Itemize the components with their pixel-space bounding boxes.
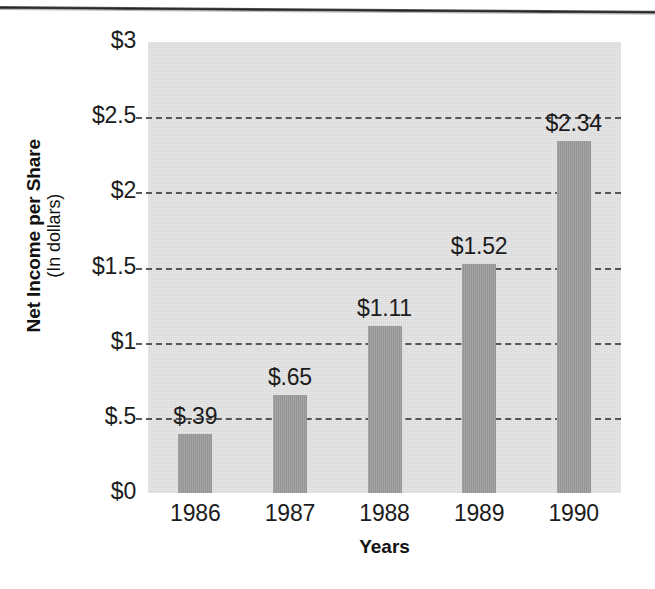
x-axis-tick-label: 1989	[429, 500, 529, 527]
bar-value-label: $1.52	[424, 233, 534, 260]
x-axis-tick-label: 1988	[335, 500, 435, 527]
x-axis-tick-label: 1986	[145, 500, 245, 527]
x-axis-title: Years	[148, 536, 621, 558]
bar-value-label: $2.34	[519, 110, 629, 137]
x-axis-tick-label: 1990	[524, 500, 624, 527]
bar-value-label: $.65	[235, 364, 345, 391]
bar	[368, 326, 402, 493]
bar	[178, 434, 212, 493]
y-axis-tick-label: $.5	[105, 403, 136, 430]
y-axis-tick-label: $1	[111, 328, 136, 355]
bar	[462, 264, 496, 493]
y-axis-tick-label: $2	[111, 177, 136, 204]
y-axis-tick-label: $1.5	[92, 253, 136, 280]
y-axis-tick-labels: $0$.5$1$1.5$2$2.5$3	[0, 0, 136, 589]
gridline	[136, 192, 621, 194]
y-axis-tick-label: $0	[111, 478, 136, 505]
bar	[557, 141, 591, 493]
bar-value-label: $.39	[140, 403, 250, 430]
y-axis-tick-label: $2.5	[92, 102, 136, 129]
bar-value-label: $1.11	[330, 295, 440, 322]
x-axis-tick-label: 1987	[240, 500, 340, 527]
bar	[273, 395, 307, 493]
y-axis-tick-label: $3	[111, 27, 136, 54]
gridline	[136, 268, 621, 270]
